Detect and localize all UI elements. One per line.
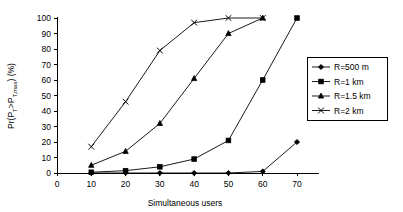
square-marker bbox=[89, 170, 94, 175]
x-axis-tick-label: 10 bbox=[87, 179, 97, 189]
x-axis-tick-label: 20 bbox=[121, 179, 131, 189]
chart-figure: 0102030405060708090100 010203040506070 P… bbox=[0, 0, 403, 212]
square-marker bbox=[295, 16, 300, 21]
legend-item-label: R=2 km bbox=[334, 106, 364, 116]
square-marker bbox=[158, 165, 163, 170]
y-axis-tick-label: 40 bbox=[42, 106, 52, 116]
chart-legend: R=500 mR=1 kmR=1.5 kmR=2 km bbox=[307, 57, 387, 120]
x-axis-tick-label: 70 bbox=[292, 179, 302, 189]
y-axis-tick-label: 20 bbox=[42, 137, 52, 147]
legend-item-label: R=500 m bbox=[334, 62, 369, 72]
legend-item-label: R=1.5 km bbox=[334, 91, 371, 101]
y-axis-tick-label: 50 bbox=[42, 91, 52, 101]
y-axis-tick-label: 100 bbox=[37, 13, 51, 23]
y-axis-tick-label: 0 bbox=[46, 168, 51, 178]
x-axis-tick-label: 60 bbox=[258, 179, 268, 189]
y-axis-tick-label: 80 bbox=[42, 44, 52, 54]
square-marker bbox=[226, 138, 231, 143]
y-axis-tick-label: 60 bbox=[42, 75, 52, 85]
y-axis-tick-label: 90 bbox=[42, 29, 52, 39]
square-marker bbox=[260, 78, 265, 83]
y-axis-tick-label: 10 bbox=[42, 153, 52, 163]
legend-item-label: R=1 km bbox=[334, 77, 364, 87]
x-axis-tick-label: 0 bbox=[55, 179, 60, 189]
x-axis-title-label: Simultaneous users bbox=[148, 198, 223, 208]
line-chart: 0102030405060708090100 010203040506070 P… bbox=[0, 0, 403, 212]
y-axis-tick-label: 30 bbox=[42, 122, 52, 132]
x-axis-tick-label: 30 bbox=[155, 179, 165, 189]
square-marker bbox=[123, 168, 128, 173]
x-axis-tick-label: 50 bbox=[224, 179, 234, 189]
y-axis-tick-label: 70 bbox=[42, 60, 52, 70]
square-marker bbox=[319, 79, 324, 84]
x-axis-tick-label: 40 bbox=[189, 179, 199, 189]
square-marker bbox=[192, 157, 197, 162]
